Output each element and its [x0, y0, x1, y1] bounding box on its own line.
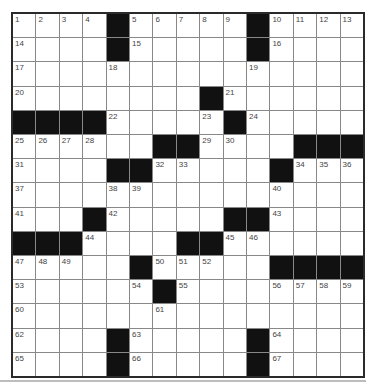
crossword-cell[interactable]: [270, 62, 292, 85]
crossword-cell[interactable]: [83, 280, 105, 303]
crossword-cell[interactable]: [224, 304, 246, 327]
crossword-cell[interactable]: [200, 353, 222, 376]
crossword-cell[interactable]: [83, 353, 105, 376]
crossword-cell[interactable]: [270, 87, 292, 110]
crossword-cell[interactable]: [317, 38, 339, 61]
crossword-cell[interactable]: [60, 329, 82, 352]
crossword-cell[interactable]: 41: [13, 208, 35, 231]
crossword-cell[interactable]: [294, 87, 316, 110]
crossword-cell[interactable]: 4: [83, 14, 105, 37]
crossword-cell[interactable]: [36, 329, 58, 352]
crossword-cell[interactable]: 45: [224, 232, 246, 255]
crossword-cell[interactable]: 56: [270, 280, 292, 303]
crossword-cell[interactable]: [341, 353, 363, 376]
crossword-cell[interactable]: 53: [13, 280, 35, 303]
crossword-cell[interactable]: [36, 280, 58, 303]
crossword-cell[interactable]: [270, 304, 292, 327]
crossword-cell[interactable]: [107, 256, 129, 279]
crossword-cell[interactable]: 34: [294, 159, 316, 182]
crossword-cell[interactable]: [83, 304, 105, 327]
crossword-cell[interactable]: [317, 87, 339, 110]
crossword-cell[interactable]: [36, 183, 58, 206]
crossword-cell[interactable]: 67: [270, 353, 292, 376]
crossword-cell[interactable]: 6: [153, 14, 175, 37]
crossword-cell[interactable]: 48: [36, 256, 58, 279]
crossword-cell[interactable]: 59: [341, 280, 363, 303]
crossword-cell[interactable]: [107, 87, 129, 110]
crossword-cell[interactable]: [317, 353, 339, 376]
crossword-cell[interactable]: [60, 87, 82, 110]
crossword-cell[interactable]: [247, 135, 269, 158]
crossword-cell[interactable]: [317, 111, 339, 134]
crossword-cell[interactable]: 65: [13, 353, 35, 376]
crossword-cell[interactable]: [294, 183, 316, 206]
crossword-cell[interactable]: 7: [177, 14, 199, 37]
crossword-cell[interactable]: 64: [270, 329, 292, 352]
crossword-cell[interactable]: [200, 304, 222, 327]
crossword-cell[interactable]: [153, 183, 175, 206]
crossword-cell[interactable]: [36, 208, 58, 231]
crossword-cell[interactable]: 60: [13, 304, 35, 327]
crossword-cell[interactable]: 16: [270, 38, 292, 61]
crossword-cell[interactable]: [224, 329, 246, 352]
crossword-cell[interactable]: 39: [130, 183, 152, 206]
crossword-cell[interactable]: 50: [153, 256, 175, 279]
crossword-cell[interactable]: 57: [294, 280, 316, 303]
crossword-cell[interactable]: [107, 304, 129, 327]
crossword-cell[interactable]: 29: [200, 135, 222, 158]
crossword-cell[interactable]: [247, 87, 269, 110]
crossword-cell[interactable]: [60, 304, 82, 327]
crossword-cell[interactable]: [270, 135, 292, 158]
crossword-cell[interactable]: [60, 208, 82, 231]
crossword-cell[interactable]: [200, 280, 222, 303]
crossword-cell[interactable]: [177, 87, 199, 110]
crossword-cell[interactable]: [341, 232, 363, 255]
crossword-cell[interactable]: 8: [200, 14, 222, 37]
crossword-cell[interactable]: 54: [130, 280, 152, 303]
crossword-cell[interactable]: 55: [177, 280, 199, 303]
crossword-cell[interactable]: 38: [107, 183, 129, 206]
crossword-cell[interactable]: [294, 353, 316, 376]
crossword-cell[interactable]: [130, 135, 152, 158]
crossword-cell[interactable]: [130, 111, 152, 134]
crossword-cell[interactable]: 32: [153, 159, 175, 182]
crossword-cell[interactable]: 26: [36, 135, 58, 158]
crossword-cell[interactable]: [294, 232, 316, 255]
crossword-cell[interactable]: [177, 353, 199, 376]
crossword-cell[interactable]: [247, 256, 269, 279]
crossword-cell[interactable]: 3: [60, 14, 82, 37]
crossword-cell[interactable]: 12: [317, 14, 339, 37]
crossword-cell[interactable]: [247, 280, 269, 303]
crossword-cell[interactable]: 2: [36, 14, 58, 37]
crossword-cell[interactable]: 28: [83, 135, 105, 158]
crossword-cell[interactable]: [153, 111, 175, 134]
crossword-cell[interactable]: [294, 111, 316, 134]
crossword-cell[interactable]: [36, 159, 58, 182]
crossword-cell[interactable]: [153, 353, 175, 376]
crossword-cell[interactable]: [200, 329, 222, 352]
crossword-cell[interactable]: [83, 159, 105, 182]
crossword-cell[interactable]: 66: [130, 353, 152, 376]
crossword-cell[interactable]: [270, 232, 292, 255]
crossword-cell[interactable]: 49: [60, 256, 82, 279]
crossword-cell[interactable]: [200, 159, 222, 182]
crossword-cell[interactable]: 61: [153, 304, 175, 327]
crossword-cell[interactable]: 10: [270, 14, 292, 37]
crossword-cell[interactable]: [60, 280, 82, 303]
crossword-cell[interactable]: [107, 135, 129, 158]
crossword-cell[interactable]: [200, 183, 222, 206]
crossword-cell[interactable]: 35: [317, 159, 339, 182]
crossword-cell[interactable]: [341, 208, 363, 231]
crossword-cell[interactable]: 46: [247, 232, 269, 255]
crossword-cell[interactable]: 19: [247, 62, 269, 85]
crossword-cell[interactable]: [130, 87, 152, 110]
crossword-cell[interactable]: [36, 304, 58, 327]
crossword-cell[interactable]: [153, 329, 175, 352]
crossword-cell[interactable]: 36: [341, 159, 363, 182]
crossword-cell[interactable]: [60, 183, 82, 206]
crossword-cell[interactable]: 43: [270, 208, 292, 231]
crossword-cell[interactable]: 62: [13, 329, 35, 352]
crossword-cell[interactable]: [247, 304, 269, 327]
crossword-cell[interactable]: 63: [130, 329, 152, 352]
crossword-cell[interactable]: 5: [130, 14, 152, 37]
